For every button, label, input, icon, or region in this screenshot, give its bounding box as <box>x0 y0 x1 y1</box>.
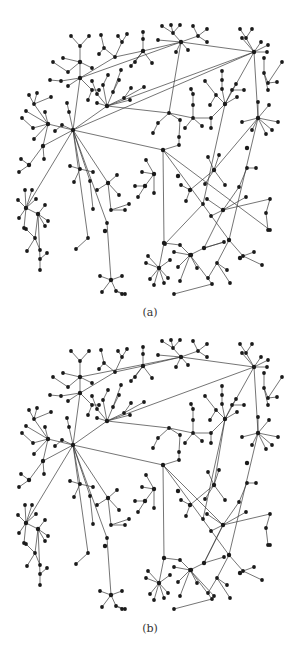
graph-edge <box>181 357 254 367</box>
graph-edge <box>107 52 254 106</box>
graph-edge <box>211 104 225 118</box>
graph-node <box>38 248 42 252</box>
graph-node <box>133 375 137 379</box>
graph-edge <box>181 36 198 42</box>
graph-node <box>266 403 270 407</box>
graph-edge <box>25 190 26 208</box>
graph-node <box>46 534 50 538</box>
graph-edge <box>113 80 119 92</box>
graph-edge <box>185 433 193 443</box>
graph-edge <box>178 255 190 267</box>
graph-edge <box>178 570 190 582</box>
graph-edge <box>102 280 111 292</box>
graph-edge <box>73 445 107 538</box>
graph-edge <box>266 528 268 545</box>
graph-node <box>99 348 103 352</box>
graph-node <box>109 278 113 282</box>
graph-node <box>106 181 110 185</box>
graph-node <box>223 102 227 106</box>
graph-node <box>268 543 272 547</box>
graph-node <box>262 386 266 390</box>
graph-node <box>91 207 95 211</box>
graph-node <box>264 132 268 136</box>
graph-node <box>162 281 166 285</box>
graph-node <box>38 268 42 272</box>
graph-edge <box>71 36 80 46</box>
graph-edge <box>180 255 190 281</box>
graph-node <box>250 128 254 132</box>
graph-node <box>266 81 270 85</box>
graph-edge <box>164 558 180 560</box>
graph-node <box>178 433 182 437</box>
graph-node <box>66 84 70 88</box>
graph-node <box>163 242 167 246</box>
graph-node <box>102 46 106 50</box>
graph-edge <box>43 439 48 461</box>
graph-node <box>245 166 249 170</box>
graph-edge <box>103 85 107 106</box>
graph-node <box>24 424 28 428</box>
graph-node <box>60 438 64 442</box>
graph-node <box>254 481 258 485</box>
graph-node <box>95 407 99 411</box>
graph-edge <box>214 470 219 485</box>
graph-edge <box>26 544 35 553</box>
graph-node <box>191 418 195 422</box>
graph-edge <box>73 130 108 183</box>
graph-edge <box>73 393 80 445</box>
graph-node <box>105 536 109 540</box>
graph-node <box>250 27 254 31</box>
graph-node <box>223 417 227 421</box>
graph-node <box>141 364 145 368</box>
graph-edge <box>207 199 223 210</box>
graph-node <box>120 355 124 359</box>
graph-node <box>141 345 145 349</box>
graph-edge <box>163 145 179 150</box>
graph-node <box>223 498 227 502</box>
graph-node <box>35 91 39 95</box>
graph-edge <box>73 130 163 150</box>
graph-node <box>195 266 199 270</box>
graph-edge <box>34 412 51 419</box>
graph-node <box>156 436 160 440</box>
graph-edge <box>29 146 43 165</box>
graph-edge <box>35 529 38 553</box>
graph-node <box>69 34 73 38</box>
graph-edge <box>80 78 92 90</box>
graph-node <box>30 503 34 507</box>
graph-node <box>119 383 123 387</box>
graph-node <box>27 93 31 97</box>
graph-node <box>140 170 144 174</box>
graph-node <box>128 98 132 102</box>
graph-node <box>189 568 193 572</box>
graph-node <box>240 351 244 355</box>
graph-node <box>49 95 53 99</box>
graph-node <box>223 183 227 187</box>
graph-node <box>252 365 256 369</box>
graph-node <box>179 40 183 44</box>
graph-node <box>23 188 27 192</box>
graph-node <box>133 499 137 503</box>
graph-edge <box>34 104 48 124</box>
graph-node <box>166 276 170 280</box>
graph-node <box>122 96 126 100</box>
graph-node <box>69 349 73 353</box>
graph-node <box>184 514 188 518</box>
graph-node <box>71 128 75 132</box>
graph-node <box>256 415 260 419</box>
graph-node <box>178 243 182 247</box>
graph-node <box>208 103 212 107</box>
graph-node <box>195 581 199 585</box>
graph-node <box>209 431 213 435</box>
graph-node <box>68 164 72 168</box>
graph-node <box>146 569 150 573</box>
graph-node <box>122 411 126 415</box>
graph-edge <box>204 210 223 248</box>
graph-node <box>78 60 82 64</box>
graph-edge <box>223 199 270 210</box>
graph-node <box>17 485 21 489</box>
graph-node <box>191 407 195 411</box>
graph-node <box>205 342 209 346</box>
graph-edge <box>73 445 163 465</box>
graph-edge <box>71 351 80 361</box>
